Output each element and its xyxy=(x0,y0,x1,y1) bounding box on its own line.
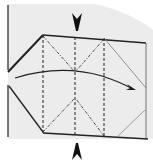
origami-diagram xyxy=(0,0,153,162)
paper-shade-left xyxy=(0,0,8,162)
paper-shade xyxy=(8,4,153,150)
